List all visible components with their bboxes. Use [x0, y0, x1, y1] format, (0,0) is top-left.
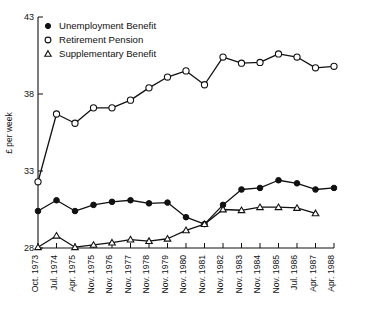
- x-tick-label: Nov. 1978: [141, 255, 151, 294]
- data-point-filled-circle: [91, 202, 97, 208]
- data-point-filled-circle: [35, 208, 41, 214]
- data-point-open-circle: [238, 60, 244, 66]
- y-tick-label: 28: [24, 243, 34, 253]
- x-tick-label: Nov. 1984: [252, 255, 262, 294]
- y-axis-tick-labels: 43 38 33 28: [24, 12, 34, 253]
- x-tick-label: Jul. 1986: [289, 255, 299, 290]
- open-triangle-icon: [45, 51, 51, 57]
- data-point-filled-circle: [276, 177, 282, 183]
- legend: Unemployment Benefit Retirement Pension …: [45, 20, 157, 59]
- data-point-open-circle: [109, 105, 115, 111]
- data-point-open-circle: [90, 105, 96, 111]
- legend-label: Retirement Pension: [59, 34, 143, 45]
- series-unemployment-benefit: [35, 177, 337, 226]
- data-point-filled-circle: [294, 181, 300, 187]
- legend-label: Unemployment Benefit: [59, 20, 156, 31]
- x-tick-label: Nov. 1976: [104, 255, 114, 294]
- data-point-open-triangle: [53, 232, 60, 238]
- x-tick-label: Nov. 1977: [123, 255, 133, 294]
- data-point-filled-circle: [165, 200, 171, 206]
- x-tick-label: Nov. 1980: [178, 255, 188, 294]
- legend-item-retirement-pension[interactable]: Retirement Pension: [45, 34, 143, 45]
- data-point-filled-circle: [146, 201, 152, 207]
- data-point-open-circle: [257, 59, 263, 65]
- x-tick-label: Nov. 1982: [215, 255, 225, 294]
- x-tick-label: Nov. 1985: [271, 255, 281, 294]
- x-tick-label: Nov. 1983: [234, 255, 244, 294]
- x-axis-ticks: [38, 243, 334, 248]
- data-point-open-circle: [275, 51, 281, 57]
- series-retirement-pension: [35, 51, 337, 185]
- x-tick-label: Nov. 1979: [160, 255, 170, 294]
- data-point-filled-circle: [54, 197, 60, 203]
- data-point-open-circle: [53, 111, 59, 117]
- data-point-open-circle: [183, 68, 189, 74]
- data-point-open-circle: [127, 97, 133, 103]
- data-point-filled-circle: [72, 208, 78, 214]
- x-tick-label: Oct. 1973: [30, 255, 40, 292]
- data-point-open-circle: [331, 63, 337, 69]
- data-point-filled-circle: [239, 187, 245, 193]
- filled-circle-icon: [45, 23, 50, 28]
- legend-item-unemployment-benefit[interactable]: Unemployment Benefit: [45, 20, 156, 31]
- data-point-open-circle: [312, 65, 318, 71]
- y-axis-label: £ per week: [4, 111, 14, 153]
- y-tick-label: 43: [24, 12, 34, 22]
- data-point-open-circle: [294, 54, 300, 60]
- legend-item-supplementary-benefit[interactable]: Supplementary Benefit: [45, 48, 157, 59]
- data-point-open-triangle: [35, 244, 42, 250]
- x-tick-label: Nov. 1981: [197, 255, 207, 294]
- data-point-filled-circle: [109, 199, 115, 205]
- series-line: [38, 207, 316, 247]
- data-point-open-circle: [146, 85, 152, 91]
- y-tick-label: 33: [24, 166, 34, 176]
- data-point-open-circle: [72, 120, 78, 126]
- data-point-filled-circle: [313, 187, 319, 193]
- x-tick-label: Apr. 1987: [308, 255, 318, 292]
- x-tick-label: Apr. 1988: [326, 255, 336, 292]
- x-axis-tick-labels: Oct. 1973Jul. 1974Apr. 1975Nov. 1975Nov.…: [30, 255, 336, 294]
- data-point-filled-circle: [128, 197, 134, 203]
- data-point-filled-circle: [183, 214, 189, 220]
- chart-container: 43 38 33 28 £ per week Oct. 1973Jul. 197…: [0, 0, 369, 310]
- data-point-open-circle: [201, 82, 207, 88]
- data-point-open-circle: [164, 74, 170, 80]
- data-point-filled-circle: [331, 185, 337, 191]
- open-circle-icon: [45, 37, 51, 43]
- line-chart: 43 38 33 28 £ per week Oct. 1973Jul. 197…: [0, 0, 369, 310]
- series-layer: [35, 51, 337, 250]
- data-point-open-circle: [35, 179, 41, 185]
- data-point-filled-circle: [257, 185, 263, 191]
- x-tick-label: Nov. 1975: [86, 255, 96, 294]
- data-point-open-circle: [220, 54, 226, 60]
- x-tick-label: Apr. 1975: [67, 255, 77, 292]
- legend-label: Supplementary Benefit: [59, 48, 156, 59]
- y-tick-label: 38: [24, 89, 34, 99]
- x-tick-label: Jul. 1974: [49, 255, 59, 290]
